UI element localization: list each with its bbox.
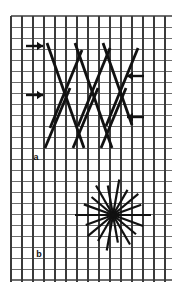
figure-canvas: ab: [0, 0, 182, 293]
figure-svg: ab: [0, 0, 182, 293]
starburst-center: [111, 213, 115, 217]
panel-label-b: b: [36, 249, 42, 259]
